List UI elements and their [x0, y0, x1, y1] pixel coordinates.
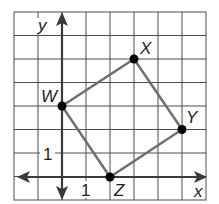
- x-axis-label: x: [193, 182, 203, 201]
- vertex-w-point: [58, 102, 67, 111]
- vertex-y-label: Y: [186, 108, 199, 127]
- quadrilateral-wxyz: [62, 59, 182, 177]
- grid: [14, 12, 206, 200]
- vertex-w-label: W: [41, 87, 59, 106]
- vertex-x-point: [130, 55, 139, 64]
- coordinate-plane-figure: y x 1 1 W X Y Z: [0, 0, 219, 204]
- vertex-z-label: Z: [113, 181, 125, 200]
- vertex-x-label: X: [139, 39, 152, 58]
- y-tick-label-1: 1: [43, 145, 52, 164]
- x-tick-label-1: 1: [81, 181, 90, 200]
- y-axis-label: y: [37, 16, 48, 35]
